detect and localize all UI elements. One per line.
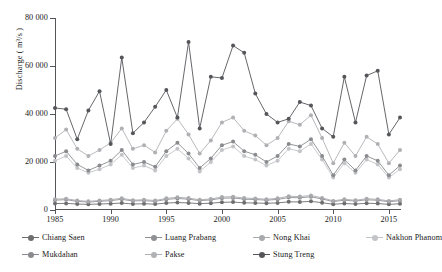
- data-point: [298, 195, 302, 199]
- data-point: [175, 147, 179, 151]
- data-point: [264, 143, 268, 147]
- data-point: [309, 113, 313, 117]
- data-point: [353, 120, 357, 124]
- legend-item-chiang-saen[interactable]: Chiang Saen: [22, 231, 85, 244]
- x-tick-label: 2000: [202, 215, 242, 225]
- data-point: [175, 141, 179, 145]
- data-point: [53, 136, 57, 140]
- x-tick-label: 1995: [146, 215, 186, 225]
- data-point: [365, 154, 369, 158]
- data-point: [231, 44, 235, 48]
- data-point: [342, 158, 346, 162]
- legend-item-nong-khai[interactable]: Nong Khai: [253, 231, 310, 244]
- data-point: [64, 149, 68, 153]
- data-point: [387, 173, 391, 177]
- data-point: [209, 75, 213, 79]
- data-point: [98, 167, 102, 171]
- legend-item-pakse[interactable]: Pakse: [145, 248, 185, 261]
- data-point: [187, 132, 191, 136]
- data-point: [253, 92, 257, 96]
- data-point: [276, 120, 280, 124]
- data-point: [220, 200, 224, 204]
- data-point: [86, 168, 90, 172]
- data-point: [187, 196, 191, 200]
- data-point: [287, 117, 291, 121]
- data-point: [253, 196, 257, 200]
- data-point: [276, 154, 280, 158]
- data-point: [198, 126, 202, 130]
- data-point: [231, 200, 235, 204]
- legend-label: Mukdahan: [42, 250, 78, 259]
- data-point: [331, 135, 335, 139]
- data-point: [220, 195, 224, 199]
- data-point: [53, 154, 57, 158]
- x-tick-label: 2010: [313, 215, 353, 225]
- data-point: [320, 154, 324, 158]
- data-point: [231, 140, 235, 144]
- series-mukdahan: [53, 137, 402, 177]
- data-point: [175, 116, 179, 120]
- data-point: [86, 154, 90, 158]
- data-point: [276, 201, 280, 205]
- data-point: [276, 136, 280, 140]
- data-point: [376, 159, 380, 163]
- data-point: [276, 196, 280, 200]
- y-tick-label: 80 000: [0, 14, 48, 22]
- data-point: [309, 137, 313, 141]
- data-point: [264, 160, 268, 164]
- data-point: [242, 129, 246, 133]
- data-point: [276, 159, 280, 163]
- data-point: [187, 40, 191, 44]
- legend-item-stung-treng[interactable]: Stung Treng: [253, 248, 314, 261]
- data-point: [253, 201, 257, 205]
- data-point: [198, 198, 202, 202]
- series-line: [55, 42, 400, 144]
- legend-marker-icon: [145, 233, 162, 242]
- series-line: [55, 139, 400, 175]
- legend-item-nakhon-phanom[interactable]: Nakhon Phanom: [366, 231, 442, 244]
- x-tick-label: 1985: [35, 215, 75, 225]
- data-point: [164, 88, 168, 92]
- legend-marker-icon: [253, 250, 270, 259]
- y-tick-label: 60 000: [0, 62, 48, 70]
- series-nakhon-phanom: [53, 142, 402, 180]
- legend-label: Chiang Saen: [42, 233, 85, 242]
- data-point: [120, 196, 124, 200]
- data-point: [109, 159, 113, 163]
- data-point: [287, 194, 291, 198]
- legend-marker-icon: [253, 233, 270, 242]
- data-point: [120, 126, 124, 130]
- data-point: [242, 154, 246, 158]
- data-point: [109, 162, 113, 166]
- data-point: [342, 75, 346, 79]
- data-point: [376, 142, 380, 146]
- data-point: [142, 160, 146, 164]
- x-tick-label: 2005: [258, 215, 298, 225]
- data-point: [287, 200, 291, 204]
- data-point: [64, 197, 68, 201]
- legend-marker-icon: [22, 250, 39, 259]
- data-point: [187, 152, 191, 156]
- data-point: [198, 152, 202, 156]
- data-point: [175, 201, 179, 205]
- data-point: [209, 197, 213, 201]
- data-point: [331, 161, 335, 165]
- legend-label: Pakse: [165, 250, 185, 259]
- data-point: [75, 147, 79, 151]
- data-point: [320, 196, 324, 200]
- legend-marker-icon: [366, 233, 383, 242]
- series-stung-treng: [53, 40, 402, 146]
- data-point: [264, 164, 268, 168]
- data-point: [253, 153, 257, 157]
- legend-item-luang-prabang[interactable]: Luang Prabang: [145, 231, 216, 244]
- data-point: [131, 147, 135, 151]
- data-point: [242, 196, 246, 200]
- data-point: [187, 201, 191, 205]
- legend-label: Luang Prabang: [165, 233, 216, 242]
- data-point: [164, 154, 168, 158]
- plot-area: [55, 18, 400, 210]
- data-point: [220, 120, 224, 124]
- legend-item-mukdahan[interactable]: Mukdahan: [22, 248, 78, 261]
- data-point: [164, 201, 168, 205]
